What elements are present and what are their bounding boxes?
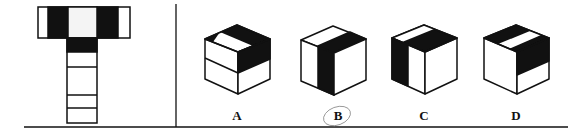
option-a-cube[interactable] (205, 25, 270, 94)
net-black-band-left (48, 7, 68, 38)
cube-net (38, 7, 130, 123)
net-black-band-right (97, 7, 118, 38)
option-b-cube[interactable] (301, 26, 366, 95)
net-center-face (68, 7, 97, 38)
option-label-b: B (334, 108, 343, 123)
option-label-a: A (232, 108, 242, 123)
net-stem-black-band (67, 38, 97, 52)
option-label-d: D (511, 108, 520, 123)
puzzle-figure: A B C D (0, 0, 578, 136)
option-label-c: C (419, 108, 428, 123)
option-c-cube[interactable] (392, 25, 457, 94)
option-d-cube[interactable] (484, 25, 549, 94)
